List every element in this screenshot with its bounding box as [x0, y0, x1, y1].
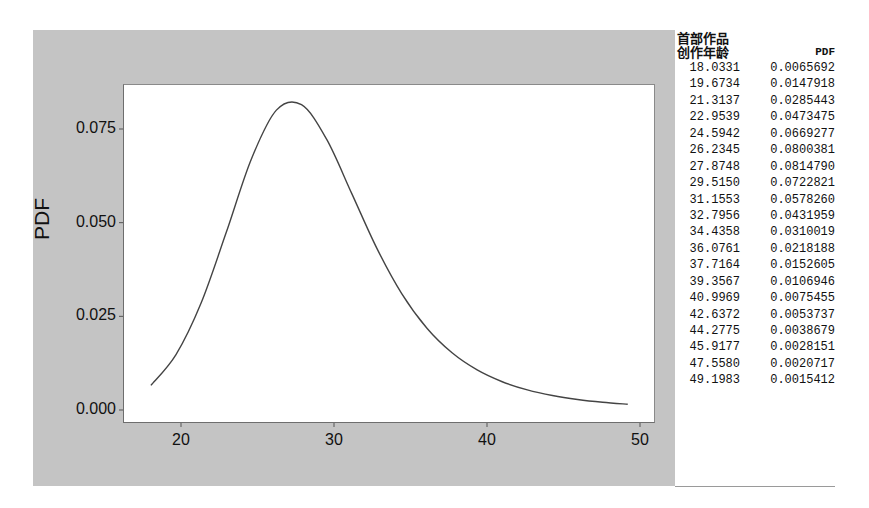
table-row: 39.35670.0106946 [677, 274, 835, 290]
age-cell: 26.2345 [677, 142, 740, 158]
age-cell: 37.7164 [677, 257, 740, 273]
table-row: 37.71640.0152605 [677, 257, 835, 273]
age-cell: 34.4358 [677, 224, 740, 240]
table-row: 26.23450.0800381 [677, 142, 835, 158]
pdf-cell: 0.0038679 [740, 323, 835, 339]
table-row: 49.19830.0015412 [677, 372, 835, 388]
table-header-age: 首部作品 创作年龄 [677, 32, 729, 60]
age-cell: 49.1983 [677, 372, 740, 388]
age-cell: 32.7956 [677, 208, 740, 224]
table-body: 18.03310.006569219.67340.014791821.31370… [677, 60, 835, 389]
age-cell: 27.8748 [677, 159, 740, 175]
age-cell: 24.5942 [677, 126, 740, 142]
x-tick-label: 40 [467, 431, 507, 449]
table-row: 31.15530.0578260 [677, 192, 835, 208]
y-tick-label: 0.025 [36, 306, 116, 324]
age-cell: 36.0761 [677, 241, 740, 257]
age-cell: 18.0331 [677, 60, 740, 76]
table-row: 42.63720.0053737 [677, 307, 835, 323]
table-header-age-line1: 首部作品 [677, 32, 729, 46]
pdf-cell: 0.0075455 [740, 290, 835, 306]
age-cell: 29.5150 [677, 175, 740, 191]
table-row: 32.79560.0431959 [677, 208, 835, 224]
table-row: 44.27750.0038679 [677, 323, 835, 339]
x-tick-label: 30 [314, 431, 354, 449]
table-row: 34.43580.0310019 [677, 224, 835, 240]
age-cell: 19.6734 [677, 76, 740, 92]
age-cell: 44.2775 [677, 323, 740, 339]
table-row: 45.91770.0028151 [677, 339, 835, 355]
pdf-cell: 0.0669277 [740, 126, 835, 142]
pdf-cell: 0.0800381 [740, 142, 835, 158]
table-row: 40.99690.0075455 [677, 290, 835, 306]
y-tick-label: 0.075 [36, 119, 116, 137]
age-cell: 31.1553 [677, 192, 740, 208]
x-tick-label: 20 [161, 431, 201, 449]
age-cell: 22.9539 [677, 109, 740, 125]
age-cell: 42.6372 [677, 307, 740, 323]
age-cell: 39.3567 [677, 274, 740, 290]
table-row: 18.03310.0065692 [677, 60, 835, 76]
pdf-cell: 0.0285443 [740, 93, 835, 109]
age-cell: 40.9969 [677, 290, 740, 306]
pdf-cell: 0.0431959 [740, 208, 835, 224]
pdf-cell: 0.0015412 [740, 372, 835, 388]
pdf-cell: 0.0814790 [740, 159, 835, 175]
y-tick-label: 0.050 [36, 213, 116, 231]
pdf-curve-line [151, 102, 628, 404]
table-row: 19.67340.0147918 [677, 76, 835, 92]
pdf-cell: 0.0147918 [740, 76, 835, 92]
pdf-cell: 0.0106946 [740, 274, 835, 290]
age-cell: 21.3137 [677, 93, 740, 109]
table-row: 27.87480.0814790 [677, 159, 835, 175]
pdf-cell: 0.0028151 [740, 339, 835, 355]
table-row: 24.59420.0669277 [677, 126, 835, 142]
age-cell: 47.5580 [677, 356, 740, 372]
x-tick-label: 50 [620, 431, 660, 449]
pdf-cell: 0.0722821 [740, 175, 835, 191]
pdf-cell: 0.0020717 [740, 356, 835, 372]
pdf-cell: 0.0053737 [740, 307, 835, 323]
y-tick-label: 0.000 [36, 400, 116, 418]
table-row: 22.95390.0473475 [677, 109, 835, 125]
pdf-cell: 0.0152605 [740, 257, 835, 273]
table-row: 21.31370.0285443 [677, 93, 835, 109]
pdf-cell: 0.0578260 [740, 192, 835, 208]
table-row: 36.07610.0218188 [677, 241, 835, 257]
pdf-cell: 0.0218188 [740, 241, 835, 257]
table-row: 47.55800.0020717 [677, 356, 835, 372]
table-header-pdf: PDF [790, 46, 835, 58]
table-header-age-line2: 创作年龄 [677, 46, 729, 60]
pdf-cell: 0.0065692 [740, 60, 835, 76]
pdf-cell: 0.0473475 [740, 109, 835, 125]
pdf-cell: 0.0310019 [740, 224, 835, 240]
age-cell: 45.9177 [677, 339, 740, 355]
table-row: 29.51500.0722821 [677, 175, 835, 191]
